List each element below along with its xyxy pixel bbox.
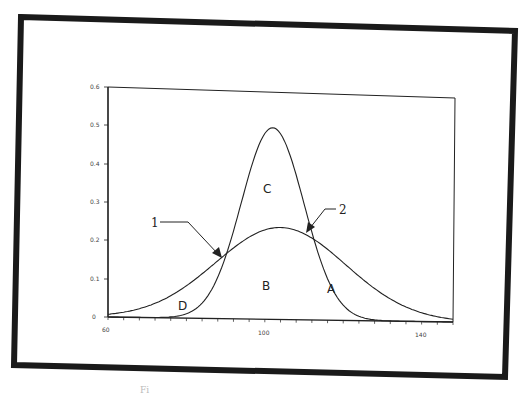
y-tick-label: 0.5 xyxy=(90,121,100,128)
broad-distribution-curve xyxy=(108,228,453,320)
callout-2: 2 xyxy=(306,203,347,233)
y-tick-label: 0 xyxy=(92,313,96,320)
x-tick-label: 100 xyxy=(258,329,270,336)
x-tick-label: 60 xyxy=(102,326,110,333)
y-axis-tick-labels: 0 0.1 0.2 0.3 0.4 0.5 0.6 xyxy=(90,83,100,320)
callout-1-label: 1 xyxy=(151,216,159,230)
x-axis-tick-labels: 60 100 140 xyxy=(102,326,427,338)
region-label-b: B xyxy=(262,279,270,293)
y-tick-label: 0.6 xyxy=(90,83,100,90)
y-tick-label: 0.1 xyxy=(90,275,100,282)
chart-figure: 0 0.1 0.2 0.3 0.4 0.5 0.6 60 100 140 C B… xyxy=(0,0,527,393)
outer-frame xyxy=(14,17,515,377)
callout-2-label: 2 xyxy=(339,203,347,217)
y-tick-label: 0.3 xyxy=(90,198,100,205)
callout-1: 1 xyxy=(151,216,222,258)
y-tick-label: 0.4 xyxy=(90,160,100,167)
narrow-distribution-curve xyxy=(108,128,453,322)
region-label-c: C xyxy=(263,182,271,196)
region-label-d: D xyxy=(178,299,187,313)
plot-area xyxy=(108,87,455,322)
x-tick-label: 140 xyxy=(415,331,427,338)
figure-caption-fragment: Fi xyxy=(140,385,149,393)
region-label-a: A xyxy=(327,282,336,296)
y-tick-label: 0.2 xyxy=(90,236,100,243)
